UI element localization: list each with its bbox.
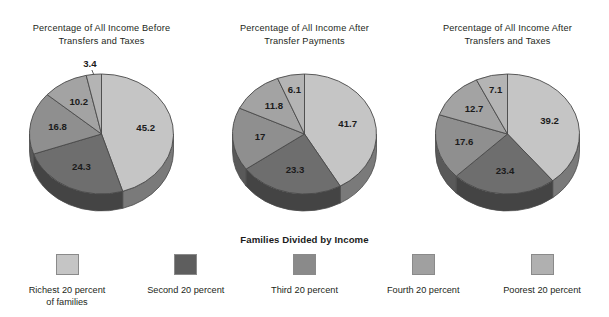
legend-label: Fourth 20 percent [387,284,460,296]
legend-label: Second 20 percent [147,284,224,296]
pie-slice-label: 11.8 [265,100,284,111]
legend-title: Families Divided by Income [0,234,609,245]
pie-chart-1: 41.723.31711.86.1 [203,56,406,224]
legend-item: Fourth 20 percent [364,254,482,296]
pie-slice-label: 3.4 [83,58,97,69]
pie-slice-label: 23.4 [496,165,515,176]
legend-swatch [531,254,554,275]
panel-title-1: Percentage of All Income After Transfer … [203,22,406,47]
pie-panel-0: Percentage of All Income Before Transfer… [0,0,203,228]
pie-slice-label: 24.3 [72,161,91,172]
legend-item: Second 20 percent [127,254,245,296]
pie-slice-label: 7.1 [489,84,503,95]
pie-panel-1: Percentage of All Income After Transfer … [203,0,406,228]
panel-title-0: Percentage of All Income Before Transfer… [0,22,203,47]
legend-items: Richest 20 percent of familiesSecond 20 … [8,254,601,308]
pie-slice-label: 17 [255,131,266,142]
pie-chart-figure: Percentage of All Income Before Transfer… [0,0,609,317]
legend-item: Poorest 20 percent [483,254,601,296]
legend-swatch [174,254,197,275]
legend-label: Third 20 percent [271,284,338,296]
pie-slice-label: 23.3 [286,164,305,175]
pie-panel-2: Percentage of All Income After Transfers… [406,0,609,228]
pie-slice-label: 17.6 [455,136,474,147]
legend-swatch [56,254,79,275]
pie-slice-label: 10.2 [69,96,88,107]
pie-slice-label: 16.8 [48,121,67,132]
pie-slice-label: 45.2 [136,122,155,133]
panel-title-2: Percentage of All Income After Transfers… [406,22,609,47]
legend-swatch [293,254,316,275]
legend-swatch [412,254,435,275]
pie-slice-label: 39.2 [540,115,559,126]
chart-legend: Families Divided by Income Richest 20 pe… [0,228,609,317]
pie-chart-2: 39.223.417.612.77.1 [406,56,609,224]
pie-chart-0: 45.224.316.810.23.4 [0,56,203,224]
pie-svg-0: 45.224.316.810.23.4 [0,56,203,224]
pie-slice-label: 6.1 [288,84,302,95]
legend-label: Richest 20 percent of families [29,284,106,308]
pie-svg-1: 41.723.31711.86.1 [203,56,406,224]
pie-svg-2: 39.223.417.612.77.1 [406,56,609,224]
legend-item: Richest 20 percent of families [8,254,126,308]
pie-slice-label: 12.7 [465,103,484,114]
pie-slice-label: 41.7 [338,118,357,129]
legend-item: Third 20 percent [246,254,364,296]
legend-label: Poorest 20 percent [503,284,581,296]
